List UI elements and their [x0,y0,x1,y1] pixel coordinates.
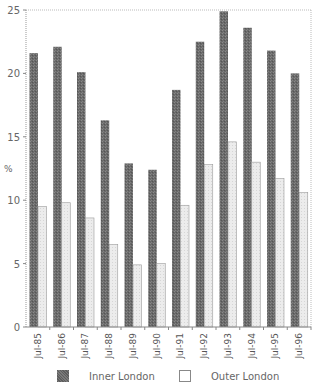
bar-inner-london [77,72,86,327]
y-axis-title: % [4,164,13,174]
bar-inner-london [148,170,157,327]
legend-swatch-inner-london [57,370,69,382]
bar-inner-london [196,42,205,327]
x-tick-label: Jul-95 [270,333,280,360]
bar-outer-london [276,179,285,327]
bar-outer-london [157,264,166,327]
x-tick-label: Jul-93 [223,333,233,360]
y-tick-label: 10 [7,195,20,206]
bar-inner-london [291,73,300,327]
x-tick-label: Jul-96 [294,333,304,360]
legend-item-outer-london: Outer London [179,370,279,382]
x-tick-label: Jul-90 [152,333,162,360]
bar-outer-london [181,205,190,327]
bar-outer-london [228,142,237,327]
bar-outer-london [38,207,47,327]
bar-inner-london [243,28,252,327]
y-tick-label: 0 [14,322,20,333]
x-tick-label: Jul-91 [175,333,185,360]
y-tick-label: 15 [7,132,20,143]
legend-label-inner-london: Inner London [89,371,155,382]
x-axis: Jul-85Jul-86Jul-87Jul-88Jul-89Jul-90Jul-… [26,327,311,360]
legend-item-inner-london: Inner London [57,370,155,382]
bar-inner-london [172,90,181,327]
x-tick-label: Jul-86 [57,333,67,360]
legend: Inner London Outer London [0,370,317,388]
x-tick-label: Jul-88 [104,333,114,360]
bar-outer-london [86,218,95,327]
bars [30,11,308,327]
legend-label-outer-london: Outer London [211,371,279,382]
bar-outer-london [252,162,261,327]
y-tick-label: 20 [7,68,20,79]
x-tick-label: Jul-87 [80,333,90,360]
x-tick-label: Jul-89 [128,333,138,360]
bar-inner-london [101,120,110,327]
bar-chart: 0510152025 Jul-85Jul-86Jul-87Jul-88Jul-8… [0,0,317,388]
bar-inner-london [125,163,134,327]
bar-inner-london [267,51,276,327]
bar-outer-london [62,203,71,327]
bar-outer-london [299,193,308,327]
legend-swatch-outer-london [179,370,191,382]
x-tick-label: Jul-94 [247,333,257,360]
y-tick-label: 25 [7,5,20,16]
x-tick-label: Jul-85 [33,333,43,360]
y-tick-label: 5 [14,259,20,270]
bar-outer-london [204,165,213,327]
bar-inner-london [53,47,62,327]
bar-inner-london [30,53,39,327]
x-tick-label: Jul-92 [199,333,209,360]
bar-outer-london [133,265,142,327]
bar-inner-london [220,11,229,327]
bar-outer-london [109,245,118,327]
